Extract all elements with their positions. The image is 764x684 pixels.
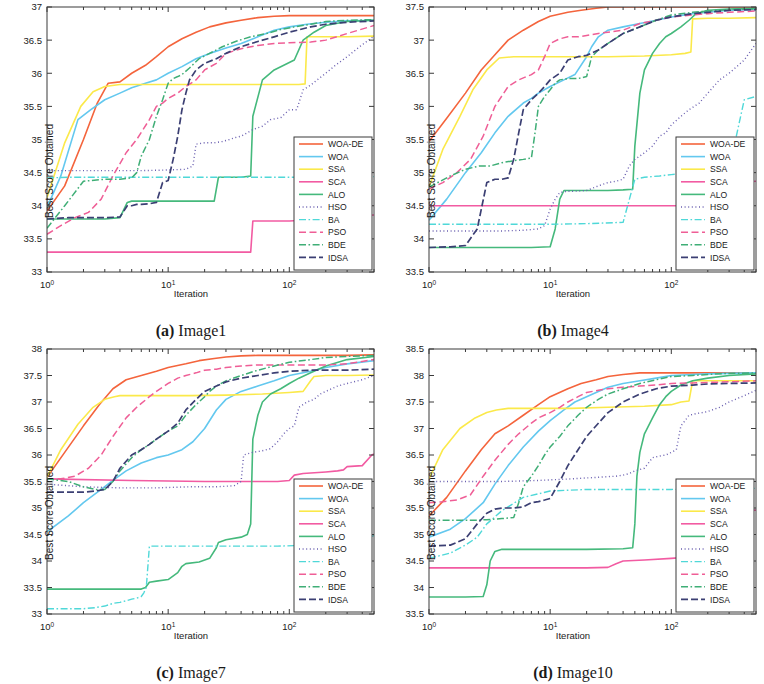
y-tick-label: 35 bbox=[31, 502, 42, 513]
legend-label: ALO bbox=[710, 532, 728, 542]
legend-label: SSA bbox=[710, 506, 727, 516]
legend-label: IDSA bbox=[710, 595, 730, 605]
plot-svg-d: 33.53434.53535.53636.53737.53838.5 10010… bbox=[382, 342, 764, 642]
series-line-sca bbox=[47, 454, 374, 482]
legend[interactable]: WOA-DE WOA SSA SCA ALO HSO BA PSO BDE ID… bbox=[676, 479, 754, 612]
legend-label: PSO bbox=[328, 227, 346, 237]
plot-svg-a: 3333.53434.53535.53636.537 100101102 WOA… bbox=[0, 0, 382, 300]
legend-label: BA bbox=[328, 215, 340, 225]
y-tick-label: 36 bbox=[413, 101, 424, 112]
y-tick-label: 38.5 bbox=[406, 343, 425, 354]
plot-svg-c: 3333.53434.53535.53636.53737.538 1001011… bbox=[0, 342, 382, 642]
caption-letter: (a) bbox=[156, 322, 175, 339]
legend-label: ALO bbox=[710, 190, 728, 200]
y-tick-label: 36 bbox=[413, 476, 424, 487]
y-tick-label: 35 bbox=[413, 529, 424, 540]
y-tick-label: 34.5 bbox=[24, 167, 43, 178]
y-tick-label: 36.5 bbox=[406, 68, 425, 79]
y-tick-label: 38 bbox=[413, 370, 424, 381]
legend-label: BA bbox=[710, 557, 722, 567]
caption-letter: (d) bbox=[533, 664, 553, 681]
y-tick-label: 33.5 bbox=[406, 608, 425, 619]
legend-label: BDE bbox=[328, 240, 346, 250]
caption-text: Image1 bbox=[178, 322, 226, 339]
y-tick-label: 34 bbox=[413, 582, 424, 593]
plot-svg-b: 33.53434.53535.53636.53737.5 100101102 W… bbox=[382, 0, 764, 300]
legend-label: HSO bbox=[328, 544, 347, 554]
legend-label: WOA-DE bbox=[710, 139, 746, 149]
x-axis-label: Iteration bbox=[382, 630, 764, 641]
y-axis-label: Best Score Obtained bbox=[44, 124, 55, 218]
y-tick-label: 37 bbox=[31, 1, 42, 12]
y-tick-label: 37.5 bbox=[406, 1, 425, 12]
series-line-idsa bbox=[47, 369, 374, 492]
y-tick-label: 37.5 bbox=[24, 370, 43, 381]
y-tick-label: 37 bbox=[31, 396, 42, 407]
panel-caption-d: (d) Image10 bbox=[382, 664, 764, 682]
y-tick-label: 33.5 bbox=[24, 233, 43, 244]
y-tick-label: 35 bbox=[413, 167, 424, 178]
legend[interactable]: WOA-DE WOA SSA SCA ALO HSO BA PSO BDE ID… bbox=[294, 479, 372, 612]
legend-label: WOA-DE bbox=[710, 481, 746, 491]
chart-panel-d: 33.53434.53535.53636.53737.53838.5 10010… bbox=[382, 342, 764, 684]
legend-label: SCA bbox=[710, 519, 728, 529]
legend-label: BDE bbox=[710, 582, 728, 592]
legend[interactable]: WOA-DE WOA SSA SCA ALO HSO BA PSO BDE ID… bbox=[294, 137, 372, 270]
y-tick-label: 33 bbox=[31, 266, 42, 277]
x-axis-label: Iteration bbox=[0, 288, 382, 299]
legend[interactable]: WOA-DE WOA SSA SCA ALO HSO BA PSO BDE ID… bbox=[676, 137, 754, 270]
y-tick-label: 37 bbox=[413, 423, 424, 434]
y-tick-label: 33.5 bbox=[24, 582, 43, 593]
y-tick-labels: 3333.53434.53535.53636.53737.538 bbox=[24, 343, 43, 619]
y-tick-label: 34 bbox=[31, 200, 42, 211]
series-line-woa-de bbox=[429, 7, 756, 141]
caption-letter: (b) bbox=[537, 322, 557, 339]
y-axis-label: Best Score Obtained bbox=[426, 466, 437, 560]
plot-area-a: 3333.53434.53535.53636.537 100101102 WOA… bbox=[0, 0, 382, 300]
legend-label: PSO bbox=[710, 569, 728, 579]
legend-label: WOA bbox=[710, 152, 731, 162]
legend-label: BA bbox=[328, 557, 340, 567]
legend-label: BDE bbox=[710, 240, 728, 250]
legend-label: BA bbox=[710, 215, 722, 225]
legend-label: SSA bbox=[710, 164, 727, 174]
legend-label: IDSA bbox=[328, 253, 348, 263]
y-tick-label: 33.5 bbox=[406, 266, 425, 277]
caption-text: Image7 bbox=[178, 664, 226, 681]
chart-panel-c: 3333.53434.53535.53636.53737.538 1001011… bbox=[0, 342, 382, 684]
series-line-woa-de bbox=[47, 355, 374, 477]
y-tick-label: 35.5 bbox=[406, 502, 425, 513]
series-line-hso bbox=[47, 376, 374, 488]
plot-area-d: 33.53434.53535.53636.53737.53838.5 10010… bbox=[382, 342, 764, 642]
legend-label: SSA bbox=[328, 506, 345, 516]
y-axis-label: Best Score Obtained bbox=[44, 466, 55, 560]
x-axis-label: Iteration bbox=[382, 288, 764, 299]
y-tick-label: 34.5 bbox=[406, 555, 425, 566]
y-tick-label: 36.5 bbox=[24, 423, 43, 434]
legend-label: HSO bbox=[328, 202, 347, 212]
legend-label: ALO bbox=[328, 190, 346, 200]
y-tick-labels: 3333.53434.53535.53636.537 bbox=[24, 1, 43, 277]
y-tick-label: 37.5 bbox=[406, 396, 425, 407]
legend-label: SCA bbox=[328, 177, 346, 187]
legend-label: PSO bbox=[710, 227, 728, 237]
legend-label: SCA bbox=[328, 519, 346, 529]
y-tick-labels: 33.53434.53535.53636.53737.53838.5 bbox=[406, 343, 425, 619]
y-axis-label: Best Score Obtained bbox=[426, 124, 437, 218]
legend-label: HSO bbox=[710, 202, 729, 212]
series-line-hso bbox=[429, 390, 756, 481]
caption-letter: (c) bbox=[156, 664, 174, 681]
y-tick-label: 34 bbox=[31, 555, 42, 566]
y-tick-label: 35.5 bbox=[24, 101, 43, 112]
y-tick-label: 34 bbox=[413, 233, 424, 244]
panel-caption-a: (a) Image1 bbox=[0, 322, 382, 340]
legend-label: PSO bbox=[328, 569, 346, 579]
caption-text: Image10 bbox=[557, 664, 613, 681]
panel-caption-c: (c) Image7 bbox=[0, 664, 382, 682]
legend-label: SCA bbox=[710, 177, 728, 187]
chart-panel-b: 33.53434.53535.53636.53737.5 100101102 W… bbox=[382, 0, 764, 342]
y-tick-label: 38 bbox=[31, 343, 42, 354]
x-axis-label: Iteration bbox=[0, 630, 382, 641]
y-tick-label: 36.5 bbox=[24, 35, 43, 46]
legend-label: IDSA bbox=[710, 253, 730, 263]
